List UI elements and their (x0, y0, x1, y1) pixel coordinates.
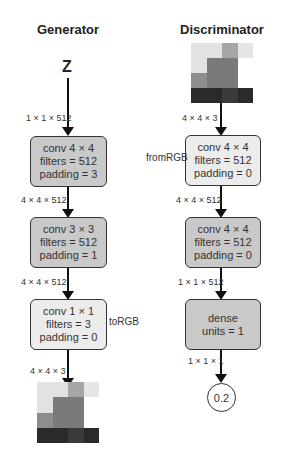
edge-label: 4 × 4 × 3 (30, 366, 66, 376)
block-line: conv 1 × 1 (43, 305, 94, 318)
torgb-label: toRGB (109, 316, 139, 327)
pixel-cell (53, 428, 69, 443)
pixel-cell (68, 382, 84, 397)
pixel-cell (222, 88, 238, 103)
block-line: filters = 512 (194, 236, 251, 249)
pixel-cell (238, 88, 254, 103)
edge-label: 1 × 1 × 512 (178, 277, 224, 287)
arrowhead (215, 374, 227, 383)
latent-z-label: Z (62, 58, 72, 76)
pixel-cell (207, 43, 223, 58)
block-line: filters = 3 (46, 318, 91, 331)
block-line: dense (208, 312, 238, 325)
block-line: padding = 0 (194, 167, 252, 180)
pixel-cell (222, 43, 238, 58)
generator-title: Generator (18, 22, 118, 37)
block-line: conv 4 × 4 (43, 142, 94, 155)
pixel-cell (68, 428, 84, 443)
pixel-cell (84, 397, 100, 412)
pixel-cell (191, 43, 207, 58)
pixel-cell (207, 88, 223, 103)
pixel-cell (238, 43, 254, 58)
block-line: conv 4 × 4 (197, 141, 248, 154)
fromrgb-label: fromRGB (146, 152, 188, 163)
pixel-cell (207, 58, 223, 73)
pixel-cell (37, 397, 53, 412)
pixel-cell (191, 58, 207, 73)
arrow-image-to-fromrgb (220, 103, 222, 128)
pixel-cell (238, 73, 254, 88)
block-line: padding = 0 (194, 249, 252, 262)
discriminator-block-fromrgb: conv 4 × 4 filters = 512 padding = 0 (185, 135, 261, 186)
discriminator-title: Discriminator (172, 22, 272, 37)
discriminator-input-image (191, 43, 253, 103)
edge-label: 4 × 4 × 3 (182, 113, 218, 123)
pixel-cell (191, 73, 207, 88)
pixel-cell (68, 397, 84, 412)
pixel-cell (207, 73, 223, 88)
edge-label: 4 × 4 × 512 (176, 195, 222, 205)
pixel-cell (222, 73, 238, 88)
arrow-torgb-to-image (67, 350, 69, 380)
block-line: units = 1 (202, 325, 244, 338)
pixel-cell (68, 413, 84, 428)
edge-label: 4 × 4 × 512 (21, 277, 67, 287)
generator-block-conv3x3: conv 3 × 3 filters = 512 padding = 1 (30, 217, 107, 268)
pixel-cell (53, 397, 69, 412)
discriminator-block-dense: dense units = 1 (185, 299, 261, 350)
block-line: conv 4 × 4 (197, 223, 248, 236)
edge-label: 1 × 1 × 1 (188, 356, 224, 366)
generator-block-torgb: conv 1 × 1 filters = 3 padding = 0 (30, 299, 107, 350)
block-line: filters = 512 (40, 155, 97, 168)
pixel-cell (37, 382, 53, 397)
block-line: padding = 3 (40, 168, 98, 181)
edge-label: 4 × 4 × 512 (21, 195, 67, 205)
pixel-cell (84, 413, 100, 428)
block-line: padding = 0 (40, 331, 98, 344)
arrow-conv1-to-conv2 (67, 187, 69, 210)
block-line: filters = 512 (194, 154, 251, 167)
generator-output-image (37, 382, 99, 443)
edge-label: 1 × 1 × 512 (26, 113, 72, 123)
pixel-cell (191, 88, 207, 103)
discriminator-output-score: 0.2 (207, 383, 236, 412)
pixel-cell (37, 413, 53, 428)
generator-block-conv4x4: conv 4 × 4 filters = 512 padding = 3 (30, 136, 107, 187)
pixel-cell (53, 382, 69, 397)
arrowhead (62, 127, 74, 136)
discriminator-block-conv4x4: conv 4 × 4 filters = 512 padding = 0 (185, 217, 261, 268)
block-line: conv 3 × 3 (43, 223, 94, 236)
block-line: filters = 512 (40, 236, 97, 249)
pixel-cell (84, 428, 100, 443)
pixel-cell (238, 58, 254, 73)
block-line: padding = 1 (40, 249, 98, 262)
pixel-cell (84, 382, 100, 397)
pixel-cell (37, 428, 53, 443)
pixel-cell (222, 58, 238, 73)
arrow-conv2-to-torgb (67, 268, 69, 292)
pixel-cell (53, 413, 69, 428)
